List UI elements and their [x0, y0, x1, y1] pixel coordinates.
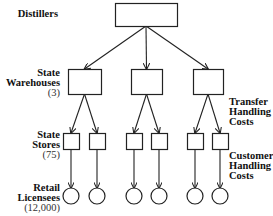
edges [71, 26, 220, 188]
arrow-warehouse-to-store-2 [85, 94, 98, 133]
arrow-warehouse-to-store-4 [147, 94, 160, 133]
warehouses-count: (3) [0, 88, 60, 98]
store-box-3 [127, 134, 143, 150]
licensee-circle-5 [187, 188, 203, 204]
store-box-5 [188, 134, 204, 150]
label-distillers: Distillers [10, 9, 58, 19]
warehouse-box-2 [132, 70, 163, 95]
label-retail-licensees: Retail Licensees (12,000) [0, 183, 60, 213]
arrow-warehouse-to-store-1 [71, 94, 85, 133]
arrow-warehouse-to-store-6 [208, 94, 220, 133]
customer-line-3: Costs [229, 171, 273, 181]
label-customer-handling-costs: Customer Handling Costs [229, 151, 273, 181]
store-box-4 [152, 134, 168, 150]
label-state-warehouses: State Warehouses (3) [0, 68, 60, 98]
distiller-box [116, 4, 178, 27]
label-transfer-handling-costs: Transfer Handling Costs [229, 97, 273, 127]
stores-count: (75) [0, 150, 60, 160]
store-box-2 [90, 134, 106, 150]
store-box-6 [213, 134, 229, 150]
arrow-distiller-to-warehouse-3 [146, 26, 208, 69]
licensee-circle-4 [151, 188, 167, 204]
licensee-circle-6 [212, 188, 228, 204]
licensee-circle-1 [63, 188, 79, 204]
transfer-line-3: Costs [229, 117, 273, 127]
store-box-1 [64, 134, 80, 150]
warehouse-box-3 [194, 70, 224, 95]
label-state-stores: State Stores (75) [0, 130, 60, 160]
licensee-circle-2 [89, 188, 105, 204]
licensees-count: (12,000) [0, 203, 60, 213]
distillers-text: Distillers [10, 9, 58, 19]
arrow-warehouse-to-store-5 [195, 94, 208, 133]
licensee-circle-3 [126, 188, 142, 204]
arrow-distiller-to-warehouse-2 [146, 26, 147, 69]
warehouse-box-1 [69, 70, 102, 95]
arrow-distiller-to-warehouse-1 [85, 26, 147, 69]
arrow-warehouse-to-store-3 [134, 94, 147, 133]
